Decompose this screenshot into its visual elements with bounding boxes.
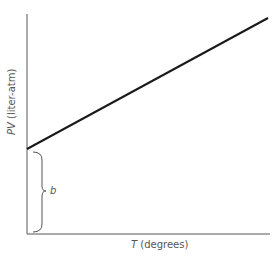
data-line xyxy=(27,18,268,149)
y-axis-label: PV (liter-atm) xyxy=(6,69,17,135)
intercept-brace xyxy=(33,152,46,232)
x-axis-label: T (degrees) xyxy=(131,239,188,250)
intercept-label: b xyxy=(50,185,56,196)
chart: b T (degrees) PV (liter-atm) xyxy=(0,0,277,257)
